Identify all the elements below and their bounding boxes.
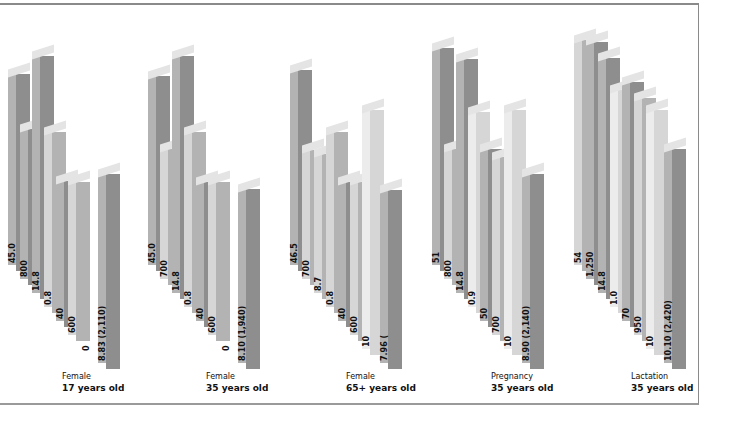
bar-value-label: 0.8 [184,291,193,305]
bar-value-label: 600 [350,316,359,333]
bar-value-label: 0 [222,345,231,351]
bar-front-face [432,44,440,265]
bar-value-label: 40 [56,308,65,319]
bar-value-label: 600 [208,316,217,333]
bar-side-face [246,189,260,369]
bar-value-label: 51 [432,252,441,263]
bar: 8.90 (2,140) [522,170,544,363]
bar-front-face [504,106,512,349]
bar-value-label: 14.8 [598,271,607,291]
caption-age: 35 years old [491,382,553,394]
bar-value-label: 8.83 (2,110) [98,306,107,361]
bar-front-face [184,128,192,307]
bar-value-label: 40 [338,308,347,319]
bar: 600 [208,178,230,335]
bar-value-label: 10 [504,336,513,347]
bar-value-label: 54 [574,252,583,263]
bar-front-face [350,178,358,335]
caption-category: Female [206,371,268,382]
bar-front-face [20,125,28,279]
bar-value-label: 600 [68,316,77,333]
bar-side-face [672,149,686,369]
caption-female-35: Female 35 years old [206,371,268,394]
bar-front-face [646,106,654,349]
bar-value-label: 10 [362,336,371,347]
bar-value-label: 800 [444,260,453,277]
bar-value-label: 800 [20,260,29,277]
bar-front-face [468,108,476,307]
bar-front-face [574,36,582,265]
bar-front-face [196,178,204,321]
caption-age: 65+ years old [346,382,416,394]
bar-group-3: 5180014.80.950700108.90 (2,140) [432,0,572,425]
bar-group-4: 541,25014.81.0709501010.10 (2,420) [574,0,714,425]
bar-front-face [492,153,500,335]
bar-value-label: 1,250 [586,252,595,277]
bar-front-face [32,52,40,293]
bar-front-face [290,66,298,265]
bar-front-face [8,70,16,265]
bar-side-face [76,182,90,341]
caption-age: 17 years old [62,382,124,394]
bar-front-face [586,38,594,279]
bar: 10.10 (2,420) [664,145,686,363]
bar-front-face [208,178,216,335]
bar-front-face [362,106,370,349]
bar-side-face [530,174,544,369]
bar-front-face [44,128,52,307]
bar-value-label: 0.8 [44,291,53,305]
bar-side-face [388,190,402,369]
bar: 8.83 (2,110) [98,170,120,363]
bar-value-label: 8.7 [314,277,323,291]
bar-front-face [314,150,322,293]
bar-value-label: 7.96 ( [380,335,389,361]
bar-group-2: 46.57008.70.840600107.96 ( [290,0,430,425]
bar-front-face [68,178,76,335]
bar-front-face [598,54,606,293]
bar-value-label: 14.8 [32,271,41,291]
bar-value-label: 14.8 [456,271,465,291]
bar-value-label: 0.9 [468,291,477,305]
bar-front-face [610,86,618,307]
bar-value-label: 0 [82,345,91,351]
bar-value-label: 50 [480,308,489,319]
bar-front-face [480,145,488,321]
bar: 7.96 ( [380,186,402,363]
bar-front-face [160,145,168,279]
bar-front-face [444,145,452,279]
bar-value-label: 10.10 (2,420) [664,300,673,361]
bar-front-face [622,78,630,321]
bar: 600 [68,178,90,335]
bar-value-label: 46.5 [290,243,299,263]
bar-value-label: 950 [634,316,643,333]
bar-front-face [634,94,642,335]
bar-front-face [172,52,180,293]
bar-value-label: 700 [492,316,501,333]
bar-value-label: 700 [160,260,169,277]
bar-value-label: 40 [196,308,205,319]
bar-value-label: 8.90 (2,140) [522,306,531,361]
bar-value-label: 14.8 [172,271,181,291]
bar-value-label: 45.0 [8,243,17,263]
caption-female-65: Female 65+ years old [346,371,416,394]
caption-category: Lactation [631,371,693,382]
bar-side-face [106,174,120,369]
caption-category: Pregnancy [491,371,553,382]
caption-age: 35 years old [631,382,693,394]
bar-value-label: 70 [622,308,631,319]
bar-front-face [456,55,464,293]
bar-value-label: 1.0 [610,291,619,305]
bar-group-1: 45.070014.80.84060008.10 (1,940) [148,0,288,425]
bar-front-face [338,178,346,321]
bar-value-label: 10 [646,336,655,347]
bar-value-label: 45.0 [148,243,157,263]
bar-front-face [326,128,334,307]
bar-front-face [148,72,156,265]
bar-front-face [56,177,64,321]
caption-female-17: Female 17 years old [62,371,124,394]
bar: 8.10 (1,940) [238,185,260,363]
bar-value-label: 8.10 (1,940) [238,306,247,361]
caption-age: 35 years old [206,382,268,394]
caption-category: Female [62,371,124,382]
caption-category: Female [346,371,416,382]
